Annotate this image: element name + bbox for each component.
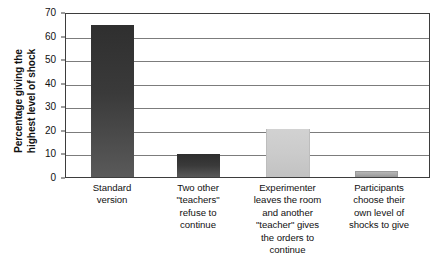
y-tick-label-60: 60 xyxy=(16,32,56,42)
bar-experimenter-leaves-room xyxy=(266,129,310,177)
y-tick-label-30: 30 xyxy=(16,102,56,112)
bar-standard-version xyxy=(91,25,134,177)
x-label-standard-version: Standard version xyxy=(71,182,153,207)
x-label-experimenter-leaves-line-1: Experimenter xyxy=(240,182,335,194)
y-tick-label-20: 20 xyxy=(16,126,56,136)
x-label-two-other-teachers-line-1: Two other xyxy=(157,182,239,194)
x-label-standard-version-line-2: version xyxy=(71,194,153,206)
x-label-participants-choose-line-2: choose their xyxy=(333,194,425,206)
x-label-experimenter-leaves-line-2: leaves the room xyxy=(240,194,335,206)
x-label-experimenter-leaves-line-6: continue xyxy=(240,244,335,256)
x-label-experimenter-leaves-line-3: and another xyxy=(240,207,335,219)
plot-area xyxy=(65,13,430,178)
x-axis-labels: Standard version Two other "teachers" re… xyxy=(65,182,430,261)
x-label-participants-choose-line-3: own level of xyxy=(333,207,425,219)
y-tick-label-50: 50 xyxy=(16,55,56,65)
x-label-experimenter-leaves-line-4: "teacher" gives xyxy=(240,219,335,231)
x-label-experimenter-leaves: Experimenter leaves the room and another… xyxy=(240,182,335,256)
x-label-two-other-teachers-line-4: continue xyxy=(157,219,239,231)
x-label-participants-choose-line-4: shocks to give xyxy=(333,219,425,231)
bar-chart: Percentage giving the highest level of s… xyxy=(0,0,436,261)
x-label-standard-version-line-1: Standard xyxy=(71,182,153,194)
y-tick-label-10: 10 xyxy=(16,149,56,159)
y-tick-label-0: 0 xyxy=(16,173,56,183)
y-tick-label-40: 40 xyxy=(16,79,56,89)
x-label-two-other-teachers-line-3: refuse to xyxy=(157,207,239,219)
x-label-participants-choose-line-1: Participants xyxy=(333,182,425,194)
y-axis-ticks: 0 10 20 30 40 50 60 70 xyxy=(0,13,61,178)
bar-two-other-teachers-refuse xyxy=(177,154,220,177)
x-label-two-other-teachers-line-2: "teachers" xyxy=(157,194,239,206)
y-tick-label-70: 70 xyxy=(16,8,56,18)
bar-participants-choose-level xyxy=(355,171,398,177)
x-label-participants-choose: Participants choose their own level of s… xyxy=(333,182,425,232)
x-label-experimenter-leaves-line-5: the orders to xyxy=(240,232,335,244)
x-label-two-other-teachers: Two other "teachers" refuse to continue xyxy=(157,182,239,232)
